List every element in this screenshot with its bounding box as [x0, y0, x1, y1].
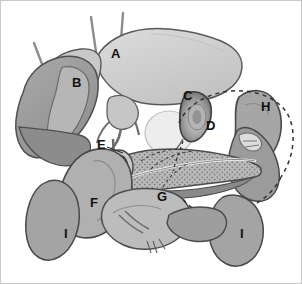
label-D: D [206, 119, 215, 132]
label-C: C [183, 89, 192, 102]
label-A: A [111, 47, 120, 60]
label-B: B [72, 76, 81, 89]
label-I-right-kidney: I [64, 227, 68, 240]
anatomy-figure: A B C D E F G H I I [0, 0, 302, 284]
label-I-left-kidney: I [240, 227, 244, 240]
label-E: E [97, 138, 106, 151]
anatomy-illustration [1, 1, 302, 284]
label-F: F [90, 196, 98, 209]
label-G: G [157, 190, 167, 203]
label-H: H [261, 100, 270, 113]
organ-right-lobe-of-liver [97, 29, 242, 105]
